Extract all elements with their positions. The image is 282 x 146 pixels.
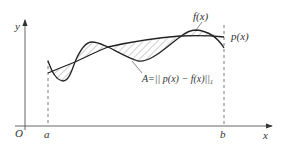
origin-label: O xyxy=(15,127,23,139)
b-label: b xyxy=(220,128,226,140)
area-label: A=|| p(x) − f(x)||1 xyxy=(141,73,213,85)
y-axis-label: y xyxy=(14,20,20,32)
x-axis-label: x xyxy=(262,129,268,141)
a-label: a xyxy=(44,128,50,140)
p-label: p(x) xyxy=(230,30,249,43)
approximation-diagram: y x O a b f(x) p(x) A=|| p(x) − f(x)||1 xyxy=(0,0,282,146)
area-leader xyxy=(132,61,142,73)
f-label: f(x) xyxy=(193,10,209,23)
f-leader xyxy=(196,22,202,30)
